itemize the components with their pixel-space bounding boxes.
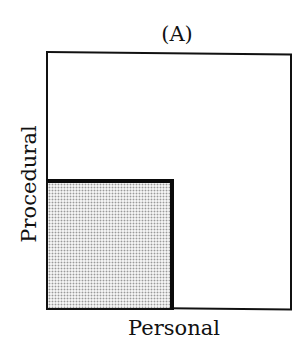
panel-label: (A) — [157, 22, 197, 46]
y-axis-label: Procedural — [16, 104, 42, 264]
x-axis-label: Personal — [110, 315, 238, 341]
shaded-subsquare — [46, 179, 174, 310]
